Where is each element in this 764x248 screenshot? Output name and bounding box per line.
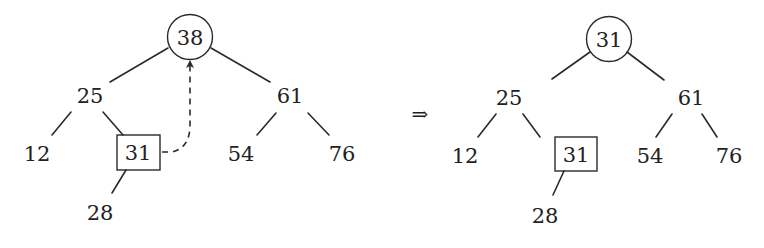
node-root: 31 — [596, 28, 623, 52]
node-right: 61 — [277, 84, 304, 108]
edge-61-76 — [308, 113, 329, 135]
node-left-right: 31 — [125, 141, 152, 165]
edge-61-54 — [656, 114, 672, 137]
edge-31-28 — [112, 170, 126, 193]
edge-25-12 — [52, 112, 71, 135]
edge-31-61 — [627, 52, 664, 80]
dashed-move-arrow-icon — [162, 64, 190, 152]
edge-25-12 — [478, 114, 496, 137]
edge-38-25 — [110, 48, 168, 82]
node-right-left: 54 — [637, 144, 664, 168]
node-left: 25 — [77, 84, 104, 108]
edge-25-31 — [523, 114, 540, 137]
node-right-right: 76 — [716, 144, 743, 168]
node-right-right: 76 — [329, 142, 356, 166]
node-right-left: 54 — [228, 142, 255, 166]
node-root: 38 — [177, 26, 204, 50]
node-left-right-left: 28 — [532, 204, 559, 228]
bst-deletion-diagram: 38 25 61 12 31 54 76 28 ⇒ 31 25 61 12 31… — [0, 0, 764, 248]
edge-31-25 — [552, 52, 590, 79]
edge-38-61 — [211, 48, 270, 82]
edge-61-76 — [702, 114, 717, 137]
node-right: 61 — [678, 86, 705, 110]
tree-before: 38 25 61 12 31 54 76 28 — [24, 15, 356, 226]
node-left-right: 31 — [563, 143, 590, 167]
node-left-left: 12 — [452, 144, 479, 168]
edge-31-28 — [553, 171, 564, 195]
implies-arrow-icon: ⇒ — [412, 102, 429, 126]
node-left-left: 12 — [24, 142, 51, 166]
tree-after: 31 25 61 12 31 54 76 28 — [452, 17, 743, 229]
edge-25-31 — [103, 112, 123, 135]
node-left-right-left: 28 — [87, 201, 114, 225]
edge-61-54 — [257, 113, 276, 135]
node-left: 25 — [496, 86, 523, 110]
